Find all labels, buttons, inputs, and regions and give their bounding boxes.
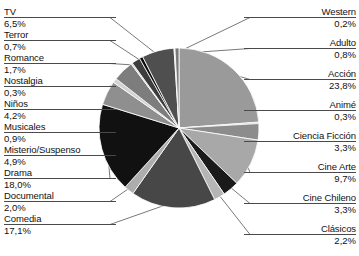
callout-label-value: 4,9% xyxy=(4,155,116,167)
callout-label-value: 0,3% xyxy=(4,86,116,98)
callout-label-name: Acción xyxy=(244,68,356,79)
callout-label-left: Drama18,0% xyxy=(4,167,116,190)
callout-label-name: Niños xyxy=(4,98,116,109)
callout-label-value: 0,8% xyxy=(244,48,356,60)
callout-label-right: Adulto0,8% xyxy=(244,37,356,60)
callout-label-left: Musicales0,9% xyxy=(4,121,116,144)
callout-label-name: TV xyxy=(4,6,116,17)
callout-label-left: TV6,5% xyxy=(4,6,116,29)
callout-label-value: 23,8% xyxy=(244,79,356,91)
callout-label-value: 3,3% xyxy=(244,203,356,215)
pie-chart-figure: TV6,5%Terror0,7%Romance1,7%Nostalgia0,3%… xyxy=(0,0,359,256)
callout-label-name: Terror xyxy=(4,29,116,40)
callout-label-value: 1,7% xyxy=(4,63,116,75)
callout-label-left: Documental2,0% xyxy=(4,190,116,213)
callout-label-left: Niños4,2% xyxy=(4,98,116,121)
callout-label-name: Adulto xyxy=(244,37,356,48)
callout-label-name: Romance xyxy=(4,52,116,63)
callout-label-right: Cine Arte9,7% xyxy=(244,161,356,184)
callout-label-name: Comedia xyxy=(4,213,116,224)
callout-label-right: Western0,2% xyxy=(244,6,356,29)
callout-label-value: 0,3% xyxy=(244,110,356,122)
callout-label-value: 9,7% xyxy=(244,172,356,184)
callout-label-right: Cine Chileno3,3% xyxy=(244,192,356,215)
callout-label-name: Cine Chileno xyxy=(244,192,356,203)
callout-label-value: 0,9% xyxy=(4,132,116,144)
callout-label-right: Acción23,8% xyxy=(244,68,356,91)
callout-label-name: Nostalgia xyxy=(4,75,116,86)
callout-label-left: Nostalgia0,3% xyxy=(4,75,116,98)
callout-label-value: 2,0% xyxy=(4,201,116,213)
callout-label-name: Misterio/Suspenso xyxy=(4,144,116,155)
callout-label-right: Ciencia Ficción3,3% xyxy=(244,130,356,153)
callout-label-name: Cine Arte xyxy=(244,161,356,172)
callout-label-value: 18,0% xyxy=(4,178,116,190)
callout-label-name: Drama xyxy=(4,167,116,178)
callout-label-value: 0,2% xyxy=(244,17,356,29)
callout-label-name: Ciencia Ficción xyxy=(244,130,356,141)
callout-label-name: Documental xyxy=(4,190,116,201)
callout-label-name: Animé xyxy=(244,99,356,110)
callout-label-value: 0,7% xyxy=(4,40,116,52)
callout-label-value: 2,2% xyxy=(244,234,356,246)
callout-label-right: Animé0,3% xyxy=(244,99,356,122)
pie-slices-group xyxy=(99,48,259,208)
callout-label-value: 3,3% xyxy=(244,141,356,153)
callout-label-left: Romance1,7% xyxy=(4,52,116,75)
callout-label-value: 6,5% xyxy=(4,17,116,29)
callout-label-name: Western xyxy=(244,6,356,17)
callout-label-value: 4,2% xyxy=(4,109,116,121)
callout-label-name: Clásicos xyxy=(244,223,356,234)
callout-label-left: Comedia17,1% xyxy=(4,213,116,236)
callout-label-right: Clásicos2,2% xyxy=(244,223,356,246)
callout-label-left: Terror0,7% xyxy=(4,29,116,52)
callout-label-name: Musicales xyxy=(4,121,116,132)
callout-label-left: Misterio/Suspenso4,9% xyxy=(4,144,116,167)
callout-label-value: 17,1% xyxy=(4,224,116,236)
